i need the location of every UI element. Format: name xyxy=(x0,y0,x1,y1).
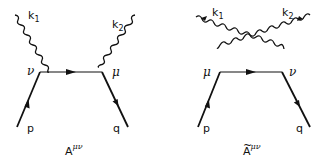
caption-direct: Aμν xyxy=(65,142,83,158)
fermion-q-line xyxy=(102,72,128,127)
label-k1: k1 xyxy=(212,6,223,21)
vertex-label-mu: μ xyxy=(112,65,120,79)
label-k2: k2 xyxy=(112,18,123,33)
label-q: q xyxy=(296,122,303,135)
photon-k1-line xyxy=(196,16,284,49)
fermion-q-line xyxy=(282,72,310,127)
fermion-p-line xyxy=(198,72,220,127)
diagram-direct: k1 k2 ν μ p q Aμν xyxy=(15,9,135,158)
vertex-label-nu: ν xyxy=(27,64,34,78)
label-q: q xyxy=(113,122,120,135)
label-k2: k2 xyxy=(282,6,293,21)
vertex-label-nu: ν xyxy=(289,65,296,79)
caption-crossed: Aμν xyxy=(243,142,261,158)
feynman-diagrams: k1 k2 ν μ p q Aμν k1 k2 μ ν p q ~ Aμν xyxy=(0,0,330,165)
fermion-q-arrow-icon xyxy=(294,100,300,107)
diagram-crossed: k1 k2 μ ν p q ~ Aμν xyxy=(196,6,310,158)
photon-k2-line xyxy=(217,14,310,48)
propagator-arrow-icon xyxy=(66,69,76,75)
label-k1: k1 xyxy=(28,9,39,24)
label-p: p xyxy=(203,122,210,135)
propagator-arrow-icon xyxy=(246,69,256,75)
vertex-label-mu: μ xyxy=(203,65,211,79)
fermion-q-arrow-icon xyxy=(113,99,119,106)
label-p: p xyxy=(27,122,34,135)
